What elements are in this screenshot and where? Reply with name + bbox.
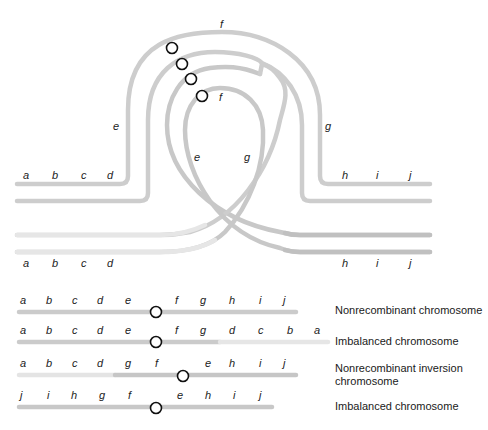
product-imbalanced-2: j i h g f e h i j Imbalanced chromosome bbox=[18, 389, 459, 414]
centromere-1 bbox=[167, 43, 178, 54]
centromere bbox=[151, 403, 162, 414]
gene-label: h bbox=[229, 357, 235, 369]
gene-label: c bbox=[72, 294, 78, 306]
gene-label: g bbox=[99, 389, 106, 401]
dark-right-lower-1 bbox=[285, 233, 430, 235]
gene-label: h bbox=[229, 294, 235, 306]
upper-right-genes: h i j bbox=[342, 169, 412, 181]
gene-label: h bbox=[205, 389, 211, 401]
gene-label: i bbox=[47, 389, 50, 401]
lower-right-genes: h i j bbox=[342, 257, 412, 269]
caption-imbalanced-1: Imbalanced chromosome bbox=[335, 335, 459, 347]
dark-right-lower-2 bbox=[285, 250, 430, 252]
gene-label: i bbox=[376, 169, 379, 181]
inversion-loop-diagram: f f e g e g a b c d h i j a b c d h i j bbox=[0, 0, 488, 430]
gene-label: i bbox=[259, 357, 262, 369]
gene-label-f-inner: f bbox=[219, 91, 223, 103]
chromatid-4 bbox=[17, 88, 430, 252]
gene-label: e bbox=[125, 324, 131, 336]
gene-label: a bbox=[20, 324, 26, 336]
gene-label: a bbox=[23, 257, 29, 269]
gene-label: e bbox=[177, 389, 183, 401]
product-nonrecombinant-inversion: a b c d g f e h i j Nonrecombinant inver… bbox=[19, 357, 463, 387]
centromere bbox=[151, 307, 162, 318]
gene-label: h bbox=[71, 389, 77, 401]
gene-label: d bbox=[229, 324, 236, 336]
chromatid-1 bbox=[17, 32, 430, 184]
gene-label: b bbox=[52, 169, 58, 181]
centromere-2 bbox=[177, 59, 188, 70]
gene-label: c bbox=[81, 257, 87, 269]
gene-label: e bbox=[205, 357, 211, 369]
gene-label: j bbox=[407, 169, 412, 181]
inversion-loop: f f e g e g a b c d h i j a b c d h i j bbox=[17, 18, 430, 269]
gene-label: f bbox=[128, 389, 132, 401]
gene-label: a bbox=[23, 169, 29, 181]
gene-label: g bbox=[125, 357, 132, 369]
lower-left-genes: a b c d bbox=[23, 257, 114, 269]
gene-label-g-outer: g bbox=[325, 120, 332, 132]
gene-label: f bbox=[175, 294, 179, 306]
gene-label: b bbox=[52, 257, 58, 269]
caption-imbalanced-2: Imbalanced chromosome bbox=[335, 400, 459, 412]
gene-label: c bbox=[258, 324, 264, 336]
gene-label: a bbox=[314, 324, 320, 336]
chromatid-2 bbox=[17, 52, 430, 201]
gene-label: a bbox=[20, 294, 26, 306]
product-imbalanced-1: a b c d e f g d c b a Imbalanced chromos… bbox=[19, 324, 459, 348]
gene-label: d bbox=[97, 357, 104, 369]
gene-label: h bbox=[342, 169, 348, 181]
gene-label: d bbox=[97, 324, 104, 336]
gene-label: f bbox=[155, 357, 159, 369]
caption-nonrecombinant-inversion-line1: Nonrecombinant inversion bbox=[335, 362, 463, 374]
gene-label: i bbox=[233, 389, 236, 401]
gene-label: g bbox=[200, 324, 207, 336]
caption-nonrecombinant-inversion-line2: chromosome bbox=[335, 375, 399, 387]
caption-nonrecombinant: Nonrecombinant chromosome bbox=[335, 304, 482, 316]
gene-label: a bbox=[20, 357, 26, 369]
gene-label-g-inner: g bbox=[244, 151, 251, 163]
gene-label: j bbox=[257, 389, 262, 401]
gene-label: i bbox=[259, 294, 262, 306]
product-nonrecombinant: a b c d e f g h i j Nonrecombinant chrom… bbox=[19, 294, 482, 318]
centromere-4 bbox=[197, 91, 208, 102]
gene-label: d bbox=[107, 257, 114, 269]
centromere bbox=[178, 371, 189, 382]
faded-left-lower-1 bbox=[17, 225, 205, 235]
faded-left-lower-2 bbox=[17, 240, 215, 252]
gene-label: f bbox=[175, 324, 179, 336]
gene-label: h bbox=[342, 257, 348, 269]
gene-label: j bbox=[281, 357, 286, 369]
gene-label-e-outer: e bbox=[113, 120, 119, 132]
gene-label: i bbox=[376, 257, 379, 269]
gene-label: j bbox=[18, 389, 23, 401]
gene-label: j bbox=[407, 257, 412, 269]
gene-label-e-inner: e bbox=[194, 151, 200, 163]
gene-label: c bbox=[81, 169, 87, 181]
gene-label: b bbox=[46, 324, 52, 336]
upper-left-genes: a b c d bbox=[23, 169, 114, 181]
gene-label: b bbox=[46, 294, 52, 306]
gene-label: c bbox=[72, 357, 78, 369]
centromere bbox=[151, 337, 162, 348]
gene-label: b bbox=[46, 357, 52, 369]
gene-label: d bbox=[107, 169, 114, 181]
gene-label: e bbox=[125, 294, 131, 306]
gene-label: c bbox=[72, 324, 78, 336]
gene-label-f-outer: f bbox=[220, 18, 224, 30]
gene-label: j bbox=[281, 294, 286, 306]
gene-label: g bbox=[200, 294, 207, 306]
gene-label: d bbox=[97, 294, 104, 306]
gene-label: b bbox=[287, 324, 293, 336]
centromere-3 bbox=[186, 74, 197, 85]
